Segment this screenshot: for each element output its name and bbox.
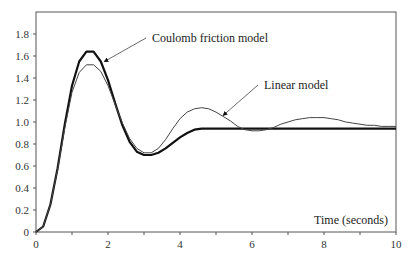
x-tick-label: 6 — [249, 238, 255, 250]
x-tick-label: 2 — [105, 238, 111, 250]
annotation-arrow — [104, 38, 146, 62]
y-tick-label: 1.8 — [15, 28, 29, 40]
annotation-arrow — [223, 85, 258, 115]
y-tick-label: 1.6 — [15, 50, 29, 62]
y-tick-label: 0.8 — [15, 138, 29, 150]
y-tick-label: 0 — [24, 226, 30, 238]
linear-annotation-label: Linear model — [264, 78, 329, 92]
x-tick-label: 8 — [321, 238, 327, 250]
plot-frame — [36, 12, 396, 232]
x-tick-label: 10 — [391, 238, 403, 250]
y-tick-label: 1.0 — [15, 116, 29, 128]
x-axis-label: Time (seconds) — [314, 213, 388, 227]
coulomb-series-line — [36, 52, 396, 232]
coulomb-annotation-label: Coulomb friction model — [152, 31, 269, 45]
y-tick-label: 0.4 — [15, 182, 29, 194]
y-tick-label: 1.4 — [15, 72, 29, 84]
y-tick-label: 0.6 — [15, 160, 29, 172]
linear-series-line — [36, 65, 396, 232]
y-tick-label: 0.2 — [15, 204, 29, 216]
chart: 00.20.40.60.81.01.21.41.61.80246810 Coul… — [0, 0, 410, 263]
series-layer — [36, 52, 396, 232]
y-tick-label: 1.2 — [15, 94, 29, 106]
x-tick-label: 4 — [177, 238, 183, 250]
x-tick-label: 0 — [33, 238, 39, 250]
annotations-layer: Coulomb friction modelLinear model — [104, 31, 329, 115]
